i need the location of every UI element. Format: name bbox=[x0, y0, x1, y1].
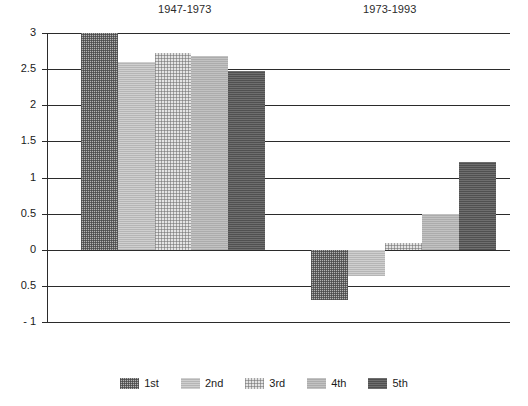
bar-3rd-1973-1993 bbox=[385, 243, 422, 250]
legend-label-1st: 1st bbox=[144, 378, 159, 389]
legend-label-2nd: 2nd bbox=[205, 378, 223, 389]
legend-swatch-5th bbox=[368, 378, 387, 389]
y-axis-label: 0.5 bbox=[0, 207, 36, 219]
bar-1st-1947-1973 bbox=[81, 33, 118, 250]
gridline bbox=[47, 286, 510, 287]
y-axis-label: 1.5 bbox=[0, 134, 36, 146]
bar-3rd-1947-1973 bbox=[155, 53, 192, 250]
gridline bbox=[47, 250, 510, 251]
legend-item-3rd[interactable]: 3rd bbox=[245, 378, 285, 389]
legend-item-5th[interactable]: 5th bbox=[368, 378, 407, 389]
gridline bbox=[47, 322, 510, 323]
legend-swatch-4th bbox=[307, 378, 326, 389]
y-axis-label: 3 bbox=[0, 26, 36, 38]
bar-2nd-1947-1973 bbox=[118, 62, 155, 250]
y-axis-label: 1 bbox=[0, 171, 36, 183]
legend-label-3rd: 3rd bbox=[269, 378, 285, 389]
y-axis-label: 0 bbox=[0, 243, 36, 255]
legend-label-4th: 4th bbox=[331, 378, 346, 389]
bar-2nd-1973-1993 bbox=[348, 250, 385, 277]
y-axis-label: 2 bbox=[0, 98, 36, 110]
group-title-1947-1973: 1947-1973 bbox=[158, 3, 212, 15]
bar-chart: 1947-1973 1973-1993 32.521.510.500.5- 1 … bbox=[0, 0, 528, 406]
plot-area bbox=[47, 33, 510, 322]
y-axis-label: 0.5 bbox=[0, 279, 36, 291]
legend-swatch-3rd bbox=[245, 378, 264, 389]
legend: 1st2nd3rd4th5th bbox=[0, 378, 528, 389]
y-axis-label: 2.5 bbox=[0, 62, 36, 74]
legend-swatch-1st bbox=[120, 378, 139, 389]
legend-item-2nd[interactable]: 2nd bbox=[181, 378, 223, 389]
legend-item-1st[interactable]: 1st bbox=[120, 378, 159, 389]
bar-1st-1973-1993 bbox=[311, 250, 348, 301]
legend-swatch-2nd bbox=[181, 378, 200, 389]
bar-5th-1973-1993 bbox=[459, 162, 496, 249]
bar-4th-1947-1973 bbox=[191, 56, 228, 250]
y-axis-label: - 1 bbox=[0, 315, 36, 327]
bar-4th-1973-1993 bbox=[422, 214, 459, 250]
group-title-1973-1993: 1973-1993 bbox=[363, 3, 417, 15]
bar-5th-1947-1973 bbox=[228, 71, 265, 249]
legend-label-5th: 5th bbox=[392, 378, 407, 389]
legend-item-4th[interactable]: 4th bbox=[307, 378, 346, 389]
